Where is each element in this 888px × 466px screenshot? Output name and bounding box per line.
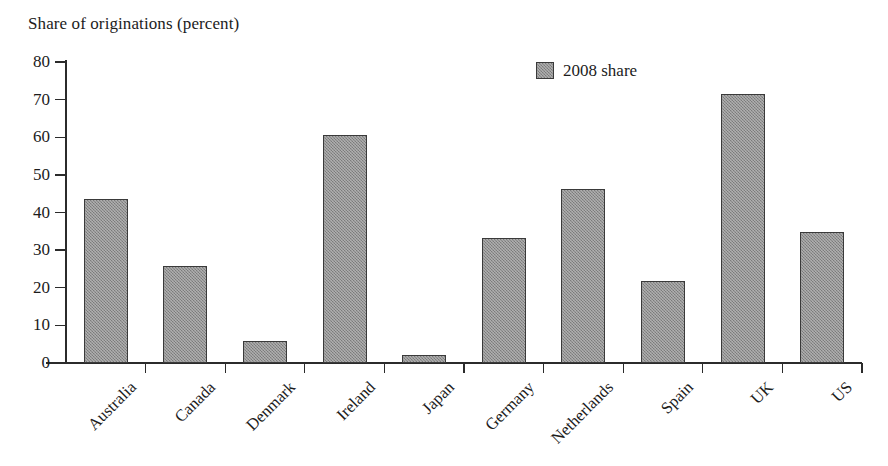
x-axis-labels: AustraliaCanadaDenmarkIrelandJapanGerman… bbox=[0, 0, 888, 466]
x-axis-category-label: Australia bbox=[85, 379, 139, 433]
legend-swatch-icon bbox=[536, 62, 554, 79]
legend-label: 2008 share bbox=[563, 62, 637, 79]
x-axis-category-label: US bbox=[829, 379, 856, 406]
x-axis-category-label: Ireland bbox=[334, 379, 379, 424]
bar-chart-figure: Share of originations (percent) 01020304… bbox=[0, 0, 888, 466]
chart-legend: 2008 share bbox=[536, 62, 637, 79]
x-axis-category-label: Germany bbox=[482, 379, 537, 434]
x-axis-category-label: Denmark bbox=[244, 379, 299, 434]
x-axis-category-label: Canada bbox=[172, 379, 219, 426]
x-axis-category-label: Netherlands bbox=[549, 379, 617, 447]
x-axis-category-label: UK bbox=[748, 379, 777, 408]
x-axis-category-label: Spain bbox=[658, 379, 696, 417]
x-axis-category-label: Japan bbox=[420, 379, 458, 417]
